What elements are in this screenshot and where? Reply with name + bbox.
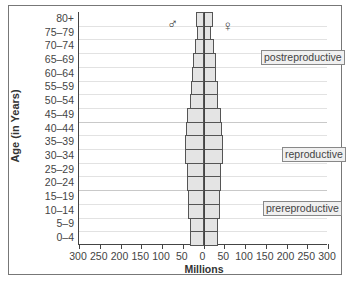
x-tick <box>183 244 184 249</box>
y-tick-label: 70–74 <box>45 40 74 51</box>
bar-female <box>204 231 218 246</box>
x-tick <box>224 244 225 249</box>
x-tick-label: 150 <box>131 250 149 262</box>
x-tick-label: 0 <box>200 250 206 262</box>
x-tick <box>79 244 80 249</box>
bar-male <box>186 122 204 137</box>
y-tick-label: 80+ <box>56 13 74 24</box>
bar-female <box>204 26 211 41</box>
y-tick-label: 50–54 <box>45 95 74 106</box>
bar-female <box>204 122 222 137</box>
bar-male <box>197 26 204 41</box>
prereproductive-label: prereproductive <box>263 201 342 216</box>
female-symbol-icon: ♀ <box>222 18 233 33</box>
bar-female <box>204 81 218 96</box>
bar-male <box>190 94 204 109</box>
bar-male <box>190 231 204 246</box>
bar-male <box>188 204 204 219</box>
bar-female <box>204 39 214 54</box>
x-axis-title: Millions <box>184 263 223 275</box>
reproductive-label: reproductive <box>282 147 346 162</box>
x-tick <box>245 244 246 249</box>
bar-male <box>191 81 204 96</box>
x-tick-label: 100 <box>152 250 170 262</box>
x-tick-label: 200 <box>277 250 295 262</box>
y-tick-label: 10–14 <box>45 205 74 216</box>
x-tick <box>162 244 163 249</box>
x-tick-label: 150 <box>256 250 274 262</box>
x-tick <box>121 244 122 249</box>
y-tick-label: 25–29 <box>45 164 74 175</box>
x-tick-label: 300 <box>318 250 336 262</box>
postreproductive-label: postreproductive <box>261 50 345 65</box>
bar-female <box>204 218 218 233</box>
x-tick-label: 50 <box>176 250 188 262</box>
x-tick-label: 200 <box>111 250 129 262</box>
y-tick-label: 35–39 <box>45 136 74 147</box>
bar-female <box>204 163 221 178</box>
bar-female <box>204 67 216 82</box>
y-tick-label: 75–79 <box>45 27 74 38</box>
x-tick-label: 300 <box>69 250 87 262</box>
x-tick-label: 250 <box>90 250 108 262</box>
male-symbol-icon: ♂ <box>167 16 178 31</box>
bar-female <box>204 135 223 150</box>
y-tick-label: 45–49 <box>45 109 74 120</box>
bar-female <box>204 176 221 191</box>
y-tick-label: 30–34 <box>45 150 74 161</box>
x-tick-label: 50 <box>217 250 229 262</box>
y-tick-label: 15–19 <box>45 191 74 202</box>
bar-female <box>204 190 220 205</box>
y-tick-label: 0–4 <box>56 232 74 243</box>
bar-female <box>204 94 218 109</box>
bar-male <box>187 176 204 191</box>
bar-male <box>188 190 204 205</box>
y-axis-title: Age (in Years) <box>9 89 21 162</box>
bar-female <box>204 12 213 27</box>
x-tick <box>100 244 101 249</box>
bar-male <box>193 53 204 68</box>
y-tick-label: 55–59 <box>45 81 74 92</box>
bar-female <box>204 53 216 68</box>
x-tick <box>141 244 142 249</box>
y-tick-label: 5–9 <box>56 218 74 229</box>
zero-line <box>204 12 205 244</box>
bar-male <box>187 108 204 123</box>
x-tick <box>328 244 329 249</box>
bar-male <box>185 149 204 164</box>
bar-female <box>204 108 221 123</box>
x-tick-label: 100 <box>235 250 253 262</box>
bar-female <box>204 149 223 164</box>
x-tick <box>204 244 205 249</box>
bar-male <box>190 218 204 233</box>
y-tick-label: 60–64 <box>45 68 74 79</box>
x-tick <box>266 244 267 249</box>
y-tick-label: 65–69 <box>45 54 74 65</box>
bar-male <box>185 135 204 150</box>
x-tick-label: 250 <box>297 250 315 262</box>
bar-male <box>196 12 204 27</box>
bar-female <box>204 204 220 219</box>
bar-male <box>195 39 204 54</box>
x-tick <box>287 244 288 249</box>
x-tick <box>307 244 308 249</box>
y-tick-label: 40–44 <box>45 123 74 134</box>
bar-male <box>187 163 204 178</box>
bar-male <box>192 67 204 82</box>
y-tick-label: 20–24 <box>45 177 74 188</box>
